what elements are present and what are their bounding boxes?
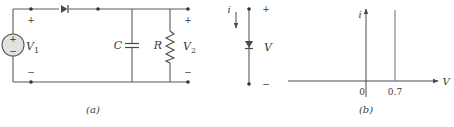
diode-plus: + <box>262 4 270 14</box>
figure-b: i + V − V i 0 0.7 (b) <box>227 4 451 115</box>
capacitor-label: C <box>114 39 123 52</box>
source-plus: + <box>9 34 17 44</box>
v2-minus: − <box>184 67 192 77</box>
v2-plus: + <box>184 15 192 25</box>
diode-terminal-bottom <box>247 82 251 86</box>
x-axis-label: V <box>442 76 451 87</box>
y-axis-label: i <box>358 9 361 20</box>
resistor-icon <box>166 31 174 63</box>
caption-b: (b) <box>359 104 373 115</box>
tick-0-7: 0.7 <box>388 87 403 97</box>
resistor-label: R <box>153 39 162 52</box>
diode-minus: − <box>262 79 270 89</box>
caption-a: (a) <box>86 104 100 115</box>
terminal-dot-bottom-left <box>29 80 33 84</box>
diode-vertical-icon <box>245 41 253 49</box>
diode-terminal-top <box>247 7 251 11</box>
capacitor-icon <box>125 44 139 48</box>
iv-graph: V i 0 0.7 <box>288 9 451 97</box>
terminal-dot-top-right <box>186 7 190 11</box>
diode-icon <box>59 5 69 13</box>
terminal-dot-top-left <box>29 7 33 11</box>
diode-voltage-label: V <box>264 41 273 54</box>
junction-dot <box>96 7 100 11</box>
circuit-figure: + − V1 + − C R + − <box>0 0 454 127</box>
terminal-dot-bottom-right <box>186 80 190 84</box>
tick-0: 0 <box>359 87 365 97</box>
current-label: i <box>227 4 230 15</box>
source-minus: − <box>9 46 17 56</box>
v2-label: V2 <box>183 40 196 55</box>
v1-terminal-minus: − <box>27 67 35 77</box>
figure-a-circuit: + − V1 + − C R + − <box>2 5 196 115</box>
v1-terminal-plus: + <box>27 15 35 25</box>
v1-label: V1 <box>26 40 39 55</box>
